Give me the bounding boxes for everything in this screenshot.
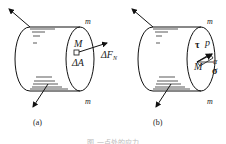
sigma-label: σ: [212, 66, 217, 76]
point-label-b: M: [194, 62, 202, 72]
section-label-a-bottom: m: [85, 98, 91, 106]
section-label-a-top: m: [85, 18, 91, 26]
force-label-a: ΔFN: [101, 50, 117, 61]
p-label: p: [205, 38, 210, 48]
section-label-b-bottom: m: [207, 98, 213, 106]
area-label-a: ΔA: [72, 58, 84, 68]
cylinder-b: [132, 9, 215, 107]
cylinder-a: [9, 9, 107, 107]
point-label-a: M: [74, 39, 82, 49]
panel-label-b: (b): [153, 119, 162, 127]
tau-label: τ: [195, 40, 200, 50]
panel-label-a: (a): [33, 119, 42, 127]
section-label-b-top: m: [207, 18, 213, 26]
figure-caption: 图 一点处的应力: [0, 137, 226, 144]
